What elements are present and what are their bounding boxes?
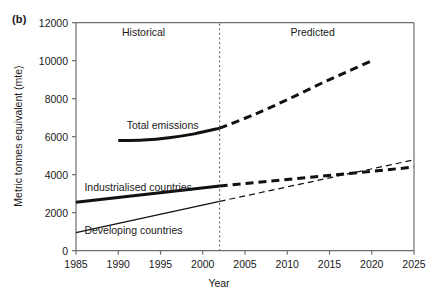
y-tick-label: 8000 xyxy=(12,93,68,105)
x-tick-label: 2005 xyxy=(223,258,267,270)
x-tick-label: 2025 xyxy=(392,258,436,270)
chart-figure: (b) Metric tonnes equivalent (mte) Year … xyxy=(0,0,438,298)
x-tick-label: 1990 xyxy=(96,258,140,270)
series-2-predicted xyxy=(220,160,414,201)
y-tick-label: 4000 xyxy=(12,169,68,181)
series-label-1: Industrialised countries xyxy=(84,181,191,193)
region-label-historical: Historical xyxy=(122,26,165,38)
x-axis-title: Year xyxy=(0,277,438,289)
x-tick-label: 1985 xyxy=(54,258,98,270)
y-tick-label: 0 xyxy=(12,245,68,257)
y-tick-label: 2000 xyxy=(12,207,68,219)
series-label-2: Developing countries xyxy=(84,224,182,236)
x-tick-label: 1995 xyxy=(139,258,183,270)
series-0-predicted xyxy=(220,61,372,128)
x-tick-label: 2010 xyxy=(265,258,309,270)
y-tick-label: 12000 xyxy=(12,17,68,29)
series-1-predicted xyxy=(220,167,414,186)
x-tick-label: 2000 xyxy=(181,258,225,270)
y-tick-label: 6000 xyxy=(12,131,68,143)
x-tick-label: 2020 xyxy=(350,258,394,270)
y-tick-label: 10000 xyxy=(12,55,68,67)
region-label-predicted: Predicted xyxy=(290,26,334,38)
series-label-0: Total emissions xyxy=(127,119,199,131)
x-tick-label: 2015 xyxy=(308,258,352,270)
